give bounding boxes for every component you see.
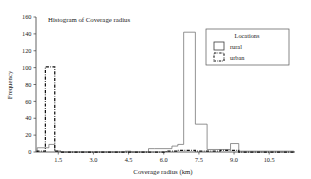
y-tick-label: 120	[22, 47, 31, 54]
histogram-figure: 020406080100120140160 1.53.04.56.07.59.0…	[0, 0, 311, 179]
legend-title: Locations	[235, 32, 260, 39]
x-axis-label: Coverage radius (km)	[133, 168, 192, 176]
x-axis-ticks: 1.53.04.56.07.59.010.5	[54, 152, 274, 163]
x-tick-label: 3.0	[89, 156, 97, 163]
x-tick-label: 6.0	[160, 156, 168, 163]
x-tick-label: 7.5	[195, 156, 203, 163]
y-tick-label: 80	[25, 81, 31, 88]
x-tick-label: 1.5	[54, 156, 62, 163]
legend-label-rural: rural	[230, 43, 242, 50]
x-tick-label: 4.5	[125, 156, 133, 163]
chart-title: Histogram of Coverage radius	[48, 16, 130, 23]
y-tick-label: 100	[22, 64, 31, 71]
x-tick-label: 9.0	[230, 156, 238, 163]
y-tick-label: 20	[25, 131, 31, 138]
legend-label-urban: urban	[230, 54, 245, 61]
y-tick-label: 0	[28, 148, 31, 155]
y-tick-label: 140	[22, 30, 31, 37]
legend-swatch-rural	[214, 42, 224, 50]
legend: Locations rural urban	[206, 29, 289, 65]
y-axis-label: Frequency	[6, 70, 13, 99]
y-tick-label: 60	[25, 98, 31, 105]
chart-canvas: 020406080100120140160 1.53.04.56.07.59.0…	[0, 0, 311, 179]
y-tick-label: 160	[22, 13, 31, 20]
x-tick-label: 10.5	[264, 156, 275, 163]
series-line-urban	[37, 67, 294, 152]
y-axis-ticks: 020406080100120140160	[22, 13, 36, 155]
y-tick-label: 40	[25, 114, 31, 121]
